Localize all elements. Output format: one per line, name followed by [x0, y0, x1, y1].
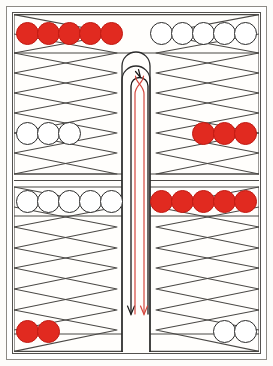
checker-white[interactable]: [100, 190, 123, 213]
checker-white[interactable]: [37, 190, 60, 213]
checker-white[interactable]: [16, 190, 39, 213]
checker-red[interactable]: [100, 22, 123, 45]
checker-white[interactable]: [234, 320, 257, 343]
checker-white[interactable]: [213, 320, 236, 343]
checker-red[interactable]: [192, 122, 215, 145]
point-right-9: [156, 268, 259, 310]
point-left-9: [14, 268, 117, 310]
checker-white[interactable]: [234, 22, 257, 45]
checker-red[interactable]: [16, 22, 39, 45]
checker-red[interactable]: [58, 22, 81, 45]
checker-white[interactable]: [16, 122, 39, 145]
right-points: [156, 15, 259, 352]
checker-white[interactable]: [171, 22, 194, 45]
checker-red[interactable]: [37, 22, 60, 45]
center-bar-fill: [123, 70, 149, 352]
point-left-8: [14, 227, 117, 268]
checker-white[interactable]: [37, 122, 60, 145]
board-play-area: [14, 14, 259, 352]
point-right-2: [156, 53, 259, 93]
checker-red[interactable]: [234, 122, 257, 145]
checker-red[interactable]: [213, 190, 236, 213]
board-graphics: [14, 14, 259, 352]
checker-red[interactable]: [171, 190, 194, 213]
checker-red[interactable]: [213, 122, 236, 145]
checker-red[interactable]: [16, 320, 39, 343]
checker-white[interactable]: [213, 22, 236, 45]
checker-white[interactable]: [192, 22, 215, 45]
checker-red[interactable]: [37, 320, 60, 343]
left-points: [14, 15, 117, 352]
checker-red[interactable]: [192, 190, 215, 213]
backgammon-figure: [0, 0, 273, 366]
checker-white[interactable]: [150, 22, 173, 45]
point-left-2: [14, 53, 117, 93]
checker-white[interactable]: [79, 190, 102, 213]
checker-white[interactable]: [58, 122, 81, 145]
checker-white[interactable]: [58, 190, 81, 213]
checker-red[interactable]: [234, 190, 257, 213]
checker-red[interactable]: [150, 190, 173, 213]
point-right-8: [156, 227, 259, 268]
checker-red[interactable]: [79, 22, 102, 45]
